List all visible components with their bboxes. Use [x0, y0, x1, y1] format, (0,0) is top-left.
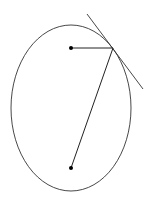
ellipse-diagram [0, 0, 156, 202]
focus-upper [69, 46, 73, 50]
focal-radius-lower [71, 48, 113, 168]
tangent-line [87, 14, 143, 89]
focus-lower [69, 166, 73, 170]
